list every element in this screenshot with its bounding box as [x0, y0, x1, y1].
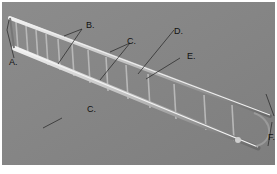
label-d: D. — [174, 27, 183, 36]
label-f: F. — [268, 133, 275, 142]
label-b: B. — [86, 21, 95, 30]
label-e: E. — [187, 52, 196, 61]
diagram-figure: A. B. C. C. D. E. F. — [0, 0, 277, 174]
label-a: A. — [9, 58, 18, 67]
label-c-top: C. — [127, 37, 136, 46]
label-c-bottom: C. — [87, 105, 96, 114]
ladder-rack-photo — [2, 2, 275, 165]
